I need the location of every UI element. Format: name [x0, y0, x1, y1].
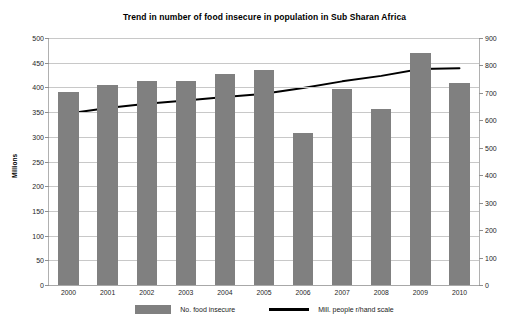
y-axis-tick-mark	[45, 260, 49, 261]
y2-axis-tick-label: 0	[485, 282, 489, 289]
legend-item-bar: No. food insecure	[135, 305, 235, 314]
chart-legend: No. food insecure Mill. people r/hand sc…	[0, 305, 529, 314]
x-axis-tick-label: 2000	[61, 289, 76, 296]
gridline	[49, 285, 479, 286]
legend-label-line: Mill. people r/hand scale	[318, 306, 394, 313]
chart-title: Trend in number of food insecure in popu…	[0, 12, 529, 22]
bar-2004	[215, 74, 235, 285]
y-axis-tick-mark	[45, 236, 49, 237]
x-axis-tick-label: 2008	[374, 289, 389, 296]
y2-axis-tick-mark	[479, 93, 483, 94]
y-axis-tick-mark	[45, 211, 49, 212]
y2-axis-tick-mark	[479, 203, 483, 204]
y-axis-tick-label: 500	[32, 35, 44, 42]
y-axis-tick-mark	[45, 63, 49, 64]
x-axis-tick-label: 2009	[413, 289, 428, 296]
legend-item-line: Mill. people r/hand scale	[269, 306, 394, 313]
y2-axis-tick-mark	[479, 230, 483, 231]
bar-2000	[58, 92, 78, 285]
x-axis-tick-label: 2001	[100, 289, 115, 296]
chart-container: Trend in number of food insecure in popu…	[0, 0, 529, 332]
y-axis-tick-label: 200	[32, 183, 44, 190]
y2-axis-tick-mark	[479, 65, 483, 66]
x-axis-tick-label: 2005	[256, 289, 271, 296]
y-axis-tick-label: 300	[32, 133, 44, 140]
plot-area: 0501001502002503003504004505000100200300…	[48, 38, 480, 285]
y2-axis-tick-label: 800	[485, 62, 497, 69]
y2-axis-tick-mark	[479, 285, 483, 286]
y2-axis-tick-label: 700	[485, 89, 497, 96]
x-axis-tick-label: 2007	[335, 289, 350, 296]
y2-axis-tick-label: 100	[485, 254, 497, 261]
legend-label-bar: No. food insecure	[180, 306, 235, 313]
y-axis-title: Millions	[11, 154, 18, 178]
bar-2001	[97, 85, 117, 285]
y2-axis-tick-mark	[479, 148, 483, 149]
x-axis-tick-label: 2004	[217, 289, 232, 296]
bar-2006	[293, 133, 313, 285]
y2-axis-tick-mark	[479, 175, 483, 176]
y2-axis-tick-label: 400	[485, 172, 497, 179]
y2-axis-tick-label: 200	[485, 227, 497, 234]
y-axis-tick-mark	[45, 137, 49, 138]
y-axis-tick-label: 150	[32, 207, 44, 214]
x-axis-tick-label: 2003	[178, 289, 193, 296]
y2-axis-tick-mark	[479, 120, 483, 121]
y2-axis-tick-label: 600	[485, 117, 497, 124]
y-axis-tick-label: 50	[36, 257, 44, 264]
x-axis-tick-label: 2006	[296, 289, 311, 296]
bar-2005	[254, 70, 274, 285]
y2-axis-tick-label: 900	[485, 35, 497, 42]
y-axis-tick-mark	[45, 162, 49, 163]
y-axis-tick-mark	[45, 112, 49, 113]
legend-swatch-bar-icon	[135, 305, 171, 314]
y2-axis-tick-mark	[479, 258, 483, 259]
bar-2008	[371, 109, 391, 285]
y2-axis-tick-label: 500	[485, 144, 497, 151]
bar-2009	[410, 53, 430, 285]
bar-2010	[449, 83, 469, 285]
x-axis-tick-label: 2002	[139, 289, 154, 296]
bar-2003	[176, 81, 196, 285]
y-axis-tick-mark	[45, 38, 49, 39]
y-axis-tick-label: 400	[32, 84, 44, 91]
y-axis-tick-label: 350	[32, 109, 44, 116]
y-axis-tick-label: 100	[32, 232, 44, 239]
gridline	[49, 38, 479, 39]
y-axis-tick-mark	[45, 285, 49, 286]
y-axis-tick-label: 0	[40, 282, 44, 289]
y2-axis-tick-label: 300	[485, 199, 497, 206]
legend-swatch-line-icon	[269, 308, 309, 311]
y2-axis-tick-mark	[479, 38, 483, 39]
y-axis-tick-label: 450	[32, 59, 44, 66]
y-axis-tick-mark	[45, 186, 49, 187]
x-axis-tick-label: 2010	[452, 289, 467, 296]
y-axis-tick-mark	[45, 87, 49, 88]
bar-2002	[137, 81, 157, 285]
bar-2007	[332, 89, 352, 285]
y-axis-tick-label: 250	[32, 158, 44, 165]
